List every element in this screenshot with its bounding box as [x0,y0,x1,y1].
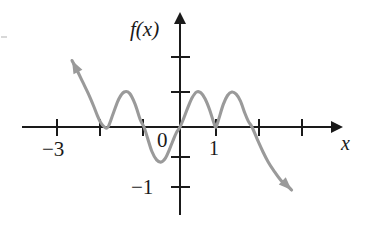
y-axis-label: f(x) [130,19,159,40]
curve-arrowhead-left [72,61,82,75]
y-axis-group [171,22,190,215]
x-tick-label-one: 1 [209,138,219,158]
function-graph-figure: f(x) x 0 1 −3 −1 [0,0,369,226]
origin-label: 0 [157,130,168,151]
graph-canvas [0,0,369,226]
y-tick-label-neg-one: −1 [131,177,153,198]
x-axis-label: x [341,133,350,153]
x-tick-label-neg-three: −3 [42,139,64,160]
